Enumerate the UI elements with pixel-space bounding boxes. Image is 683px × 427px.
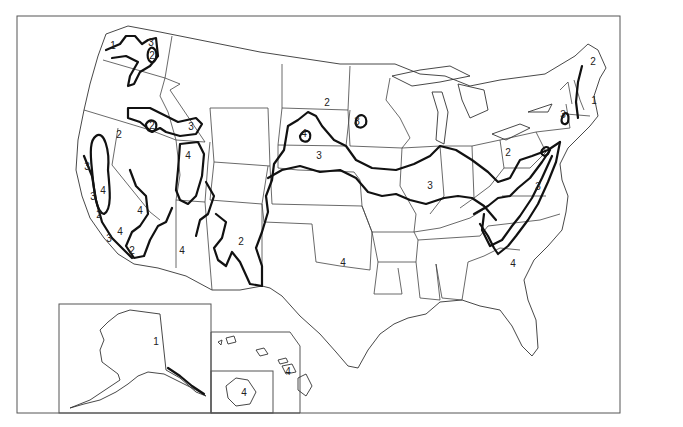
zone-label: 2 bbox=[324, 97, 330, 108]
zone-label: 1 bbox=[591, 95, 597, 106]
zone-label: 4 bbox=[117, 226, 123, 237]
zone-label: 2 bbox=[590, 56, 596, 67]
zone-label: 3 bbox=[90, 191, 96, 202]
us-zone-map: 1 3 2 2 3 2 4 3 4 3 2 4 4 3 2 4 2 2 3 4 … bbox=[0, 0, 683, 427]
zone-label: 1 bbox=[153, 336, 159, 347]
zone-label: 4 bbox=[100, 185, 106, 196]
alaska-outline bbox=[70, 310, 206, 408]
zone-label: 4 bbox=[510, 258, 516, 269]
great-lakes bbox=[392, 66, 552, 144]
alaska-inset-frame bbox=[59, 304, 211, 413]
zone-label: 4 bbox=[185, 150, 191, 161]
zone-label: 4 bbox=[285, 366, 291, 377]
zone-label: 4 bbox=[340, 257, 346, 268]
zone-label: 2 bbox=[149, 120, 155, 131]
zone-label: 2 bbox=[238, 236, 244, 247]
zone-label: 2 bbox=[149, 50, 155, 61]
zone-label: 4 bbox=[137, 205, 143, 216]
zone-label: 2 bbox=[96, 209, 102, 220]
zone-label: 4 bbox=[301, 128, 307, 139]
zone-label: 4 bbox=[179, 245, 185, 256]
us-outline bbox=[76, 26, 606, 368]
zone-label: 3 bbox=[316, 150, 322, 161]
zone-label: 3 bbox=[148, 37, 154, 48]
zone-label: 3 bbox=[354, 116, 360, 127]
zone-label: 3 bbox=[560, 109, 566, 120]
zone-label: 2 bbox=[116, 129, 122, 140]
zone-label: 3 bbox=[84, 161, 90, 172]
zone-label: 4 bbox=[241, 387, 247, 398]
zone-label: 2 bbox=[129, 245, 135, 256]
zone-label: 2 bbox=[505, 147, 511, 158]
alaska-panhandle-zone bbox=[168, 368, 204, 394]
zone-label: 3 bbox=[188, 121, 194, 132]
zone-label: 3 bbox=[427, 180, 433, 191]
zone-label: 3 bbox=[535, 181, 541, 192]
zone-label: 3 bbox=[106, 233, 112, 244]
zone-label: 1 bbox=[110, 40, 116, 51]
